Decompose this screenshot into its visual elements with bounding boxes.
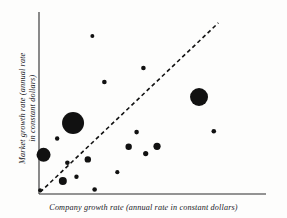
scatter-plot-figure: Company growth rate (annual rate in cons… bbox=[0, 0, 287, 218]
data-point bbox=[90, 34, 94, 38]
data-point bbox=[141, 66, 146, 71]
data-point bbox=[62, 112, 84, 134]
y-axis-label-line-1: Market growth rate (annual rate bbox=[18, 53, 27, 164]
data-point bbox=[74, 175, 78, 179]
data-point bbox=[125, 143, 131, 149]
data-point bbox=[59, 177, 67, 185]
data-point bbox=[38, 188, 42, 192]
data-point bbox=[55, 136, 59, 140]
data-point bbox=[102, 80, 107, 85]
data-point bbox=[115, 170, 119, 174]
reference-line bbox=[40, 23, 218, 192]
y-axis-label: Market growth rate (annual rate in const… bbox=[18, 18, 39, 198]
x-axis-label: Company growth rate (annual rate in cons… bbox=[0, 203, 287, 213]
data-point bbox=[134, 130, 139, 135]
data-point bbox=[190, 88, 208, 106]
data-point bbox=[153, 143, 160, 150]
data-point bbox=[65, 160, 70, 165]
data-point bbox=[37, 148, 51, 162]
parity-reference-line bbox=[40, 23, 218, 192]
data-point bbox=[143, 151, 148, 156]
data-point bbox=[211, 129, 216, 134]
axes bbox=[39, 12, 266, 194]
plot-canvas bbox=[0, 0, 287, 218]
data-points bbox=[37, 34, 217, 192]
y-axis-label-line-2: in constant dollars) bbox=[28, 18, 38, 198]
data-point bbox=[92, 187, 97, 192]
data-point bbox=[85, 156, 91, 162]
